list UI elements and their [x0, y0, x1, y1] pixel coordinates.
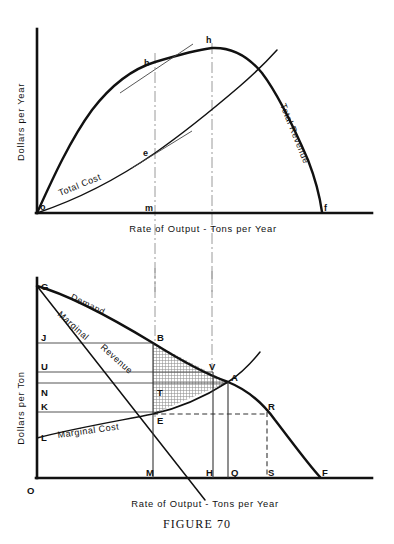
lower-point-label-O: O	[27, 485, 34, 496]
upper-point-label-m: m	[145, 203, 153, 213]
lower-point-label-B: B	[157, 332, 164, 343]
lower-point-label-Q: Q	[231, 467, 238, 478]
lower-point-label-N: N	[41, 387, 48, 398]
lower-point-label-E: E	[157, 415, 163, 426]
upper-x-axis-title: Rate of Output - Tons per Year	[129, 223, 276, 234]
lower-x-axis-title: Rate of Output - Tons per Year	[131, 498, 278, 509]
page-background	[0, 0, 394, 544]
lower-point-label-F: F	[322, 467, 328, 478]
lower-point-label-U: U	[41, 361, 48, 372]
upper-point-label-h: h	[206, 35, 212, 45]
lower-point-label-H: H	[206, 467, 213, 478]
lower-y-axis-title: Dollars per Ton	[15, 371, 26, 444]
upper-point-label-b: b	[144, 58, 150, 68]
lower-point-label-M: M	[146, 467, 154, 478]
lower-point-label-G: G	[41, 281, 48, 292]
lower-point-label-V: V	[209, 361, 216, 372]
upper-y-axis-title: Dollars per Year	[15, 83, 26, 161]
upper-point-label-o: o	[40, 202, 46, 212]
figure-root: o b e h m f Total Cost Total Revenue Dol…	[0, 0, 394, 544]
lower-point-label-A: A	[231, 372, 238, 383]
lower-point-label-T: T	[157, 387, 163, 398]
lower-point-label-J: J	[41, 332, 46, 343]
lower-point-label-S: S	[268, 467, 274, 478]
figure-70-svg: o b e h m f Total Cost Total Revenue Dol…	[0, 0, 394, 544]
lower-point-label-K: K	[41, 401, 48, 412]
figure-caption: FIGURE 70	[163, 517, 231, 531]
lower-point-label-L: L	[41, 432, 47, 443]
lower-point-label-R: R	[268, 401, 275, 412]
upper-point-label-e: e	[143, 148, 148, 158]
